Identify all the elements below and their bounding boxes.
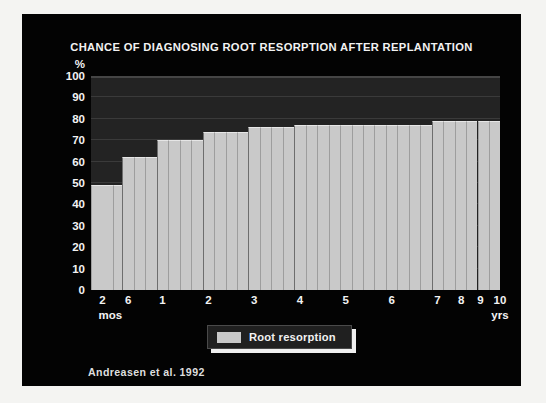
x-axis-tick-label: 6: [388, 294, 394, 306]
chart-bar: [478, 121, 489, 290]
y-axis-tick-label: 40: [72, 199, 85, 210]
x-axis-unit-months: mos: [99, 309, 123, 321]
chart-bar: [248, 127, 259, 290]
x-axis-tick-label: 2: [99, 294, 105, 306]
chart-bar: [466, 121, 477, 290]
x-axis: 2612345678910mosyrs: [91, 294, 500, 328]
chart-bar: [113, 185, 122, 290]
chart-bar: [329, 125, 340, 290]
plot-area: [91, 76, 500, 290]
x-axis-tick-label: 9: [477, 294, 483, 306]
y-axis-tick-label: 90: [72, 92, 85, 103]
chart-bar: [306, 125, 317, 290]
chart-bar: [489, 121, 500, 290]
chart-bar: [397, 125, 408, 290]
chart-bar: [317, 125, 328, 290]
y-axis-unit-label: %: [75, 58, 85, 70]
chart-legend: Root resorption: [207, 325, 352, 351]
legend-label-root-resorption: Root resorption: [249, 331, 336, 343]
plot-top-edge: [91, 76, 500, 78]
chart-bar: [214, 132, 225, 290]
chart-bar: [363, 125, 374, 290]
x-axis-tick-label: 6: [125, 294, 131, 306]
x-axis-tick-label: 8: [458, 294, 464, 306]
chart-bar: [340, 125, 351, 290]
chart-bar: [294, 125, 305, 290]
gridline: [91, 118, 500, 119]
chart-bar: [145, 157, 156, 290]
chart-bar: [237, 132, 248, 290]
y-axis-tick-label: 30: [72, 221, 85, 232]
x-axis-tick-label: 3: [251, 294, 257, 306]
y-axis-tick-label: 0: [79, 285, 85, 296]
x-axis-tick-label: 1: [159, 294, 165, 306]
chart-bar: [226, 132, 237, 290]
y-axis-tick-label: 60: [72, 157, 85, 168]
y-axis-tick-label: 50: [72, 178, 85, 189]
x-axis-tick-label: 5: [343, 294, 349, 306]
chart-bar: [180, 140, 191, 290]
legend-box: Root resorption: [207, 325, 352, 349]
chart-bar: [157, 140, 168, 290]
y-axis: % 0102030405060708090100: [40, 58, 86, 298]
chart-bar: [260, 127, 271, 290]
x-axis-tick-label: 2: [205, 294, 211, 306]
page-title: CHANCE OF DIAGNOSING ROOT RESORPTION AFT…: [22, 41, 521, 53]
slide-canvas: CHANCE OF DIAGNOSING ROOT RESORPTION AFT…: [22, 14, 521, 386]
x-axis-tick-label: 4: [297, 294, 303, 306]
citation-text: Andreasen et al. 1992: [88, 366, 205, 378]
chart-bar: [374, 125, 385, 290]
x-axis-tick-label: 7: [434, 294, 440, 306]
chart-bar: [352, 125, 363, 290]
y-axis-tick-label: 80: [72, 114, 85, 125]
chart-bar: [122, 157, 133, 290]
chart-bar: [386, 125, 397, 290]
x-axis-unit-years: yrs: [491, 309, 508, 321]
slide-photo-frame: CHANCE OF DIAGNOSING ROOT RESORPTION AFT…: [0, 0, 546, 403]
chart-bar: [409, 125, 420, 290]
chart-bar: [168, 140, 179, 290]
chart-bar: [443, 121, 454, 290]
y-axis-tick-label: 100: [66, 71, 85, 82]
chart-bar: [134, 157, 145, 290]
chart-bar: [271, 127, 282, 290]
y-axis-tick-label: 70: [72, 135, 85, 146]
chart-bar: [191, 140, 202, 290]
chart-bar: [283, 127, 294, 290]
legend-swatch-root-resorption: [217, 332, 241, 343]
y-axis-tick-label: 10: [72, 264, 85, 275]
gridline: [91, 96, 500, 97]
chart-bar: [455, 121, 466, 290]
chart-bar: [420, 125, 431, 290]
chart-bar: [432, 121, 443, 290]
y-axis-tick-label: 20: [72, 242, 85, 253]
chart-bar: [203, 132, 214, 290]
x-axis-tick-label: 10: [494, 294, 507, 306]
chart-bar: [91, 185, 113, 290]
